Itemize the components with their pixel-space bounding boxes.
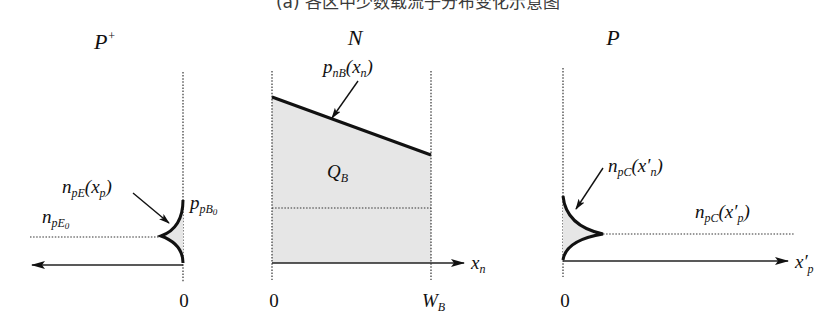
pointer-arrow — [133, 193, 169, 223]
tick-label-origin: 0 — [560, 290, 570, 311]
region-label-p: P — [605, 25, 619, 50]
axis-label-xn: xn — [470, 252, 485, 276]
tick-label-origin: 0 — [179, 290, 189, 311]
label-npC-xn-prime: npC(x′n) — [608, 155, 663, 179]
figure-caption: (a) 各区中少数载流子分布变化示意图 — [276, 0, 560, 12]
panel-p-plus-emitter: P+ npE(xp) npE0 ppB0 0 — [30, 29, 218, 311]
region-label-n: N — [347, 25, 364, 50]
tick-label-WB: WB — [422, 290, 446, 314]
panel-p-collector: P npC(x′n) npC(x′p) x′p 0 — [560, 25, 813, 311]
region-label-p-plus: P+ — [93, 29, 116, 54]
axis-label-xp-prime: x′p — [794, 251, 814, 276]
pointer-arrow — [576, 168, 603, 209]
panel-n-base: N pnB(xn) QB xn 0 WB — [269, 25, 485, 314]
label-ppB0: ppB0 — [188, 192, 218, 217]
label-npE-xp: npE(xp) — [62, 176, 112, 200]
base-charge-area — [272, 97, 431, 263]
label-pnB-xn: pnB(xn) — [321, 56, 373, 80]
pointer-arrow — [332, 81, 358, 118]
minority-carrier-distribution-diagram: (a) 各区中少数载流子分布变化示意图 P+ npE(xp) npE0 ppB0… — [0, 0, 837, 328]
tick-label-origin: 0 — [269, 290, 279, 311]
label-npE0: npE0 — [42, 206, 70, 231]
label-npC-xp-prime: npC(x′p) — [695, 201, 750, 225]
